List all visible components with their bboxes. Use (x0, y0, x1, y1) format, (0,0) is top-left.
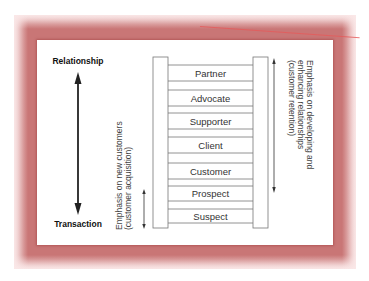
acquisition-note-line2: (customer acquisition) (123, 147, 133, 230)
ladder-right-rail (253, 57, 268, 228)
relationship-ladder-diagram: Relationship Transaction Emphasis on new… (0, 0, 369, 281)
ladder-left-rail (153, 57, 168, 228)
rung-label-prospect: Prospect (192, 188, 230, 199)
retention-note: Emphasis on developing and enhancing rel… (287, 60, 315, 169)
rung-label-customer: Customer (190, 166, 231, 177)
rung-label-partner: Partner (195, 68, 226, 79)
transaction-label: Transaction (54, 219, 102, 229)
ladder-rungs: PartnerAdvocateSupporterClientCustomerPr… (168, 65, 253, 223)
arrow-down-icon (75, 203, 82, 215)
relationship-label: Relationship (52, 56, 103, 66)
retention-note-line3: (customer retention) (287, 60, 297, 136)
rung-label-supporter: Supporter (190, 116, 232, 127)
rung-label-suspect: Suspect (193, 211, 228, 222)
acquisition-note: Emphasis on new customers (customer acqu… (114, 121, 133, 230)
small-arrow-down-icon (272, 187, 275, 193)
rung-label-client: Client (198, 140, 223, 151)
small-arrow-up-icon (272, 58, 275, 64)
rung-label-advocate: Advocate (191, 93, 231, 104)
small-arrow-up-icon (142, 189, 145, 194)
small-arrow-down-icon (142, 224, 145, 229)
arrow-up-icon (75, 72, 82, 84)
